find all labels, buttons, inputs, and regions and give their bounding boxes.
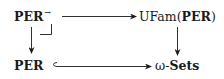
node-bottom-right: ω-Sets	[155, 59, 199, 73]
node-top-right-prefix: UFam(	[139, 9, 182, 24]
node-bottom-right-label: Sets	[169, 58, 199, 73]
node-top-left: PER→	[14, 10, 51, 26]
node-top-right-label: PER	[182, 9, 211, 24]
node-bottom-right-prefix: ω-	[155, 58, 169, 73]
node-top-left-label: PER	[14, 9, 43, 24]
arrow-superscript-icon: →	[44, 8, 51, 17]
node-bottom-left-label: PER	[14, 58, 43, 73]
node-top-right-suffix: )	[211, 9, 216, 24]
arrow-bottom-hook	[54, 63, 152, 67]
node-bottom-left: PER	[14, 59, 43, 73]
node-top-right: UFam(PER)	[139, 10, 216, 24]
